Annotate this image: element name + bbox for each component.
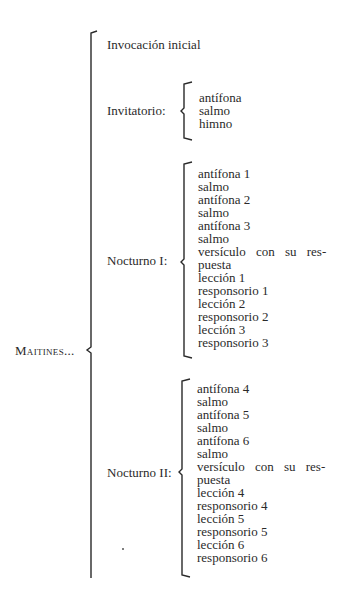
nocturno1-brace — [181, 162, 192, 358]
list-item: responsorio 3 — [198, 336, 326, 349]
speck — [122, 548, 124, 550]
section-invocacion-inicial: Invocación inicial — [107, 38, 201, 51]
section-nocturno1-label: Nocturno I: — [107, 254, 167, 267]
list-item: responsorio 6 — [197, 551, 325, 564]
section-invitatorio-label: Invitatorio: — [107, 104, 166, 117]
invitatorio-brace — [181, 82, 192, 140]
main-brace — [87, 31, 97, 578]
nocturno1-list: antífona 1 salmo antífona 2 salmo antífo… — [198, 167, 326, 349]
root-label-maitines: Maitines... — [15, 344, 75, 357]
invitatorio-list: antífona salmo himno — [199, 91, 242, 130]
nocturno2-brace — [179, 379, 190, 577]
section-nocturno2-label: Nocturno II: — [107, 466, 172, 479]
nocturno2-list: antífona 4 salmo antífona 5 salmo antífo… — [197, 382, 325, 564]
list-item: himno — [199, 117, 242, 130]
